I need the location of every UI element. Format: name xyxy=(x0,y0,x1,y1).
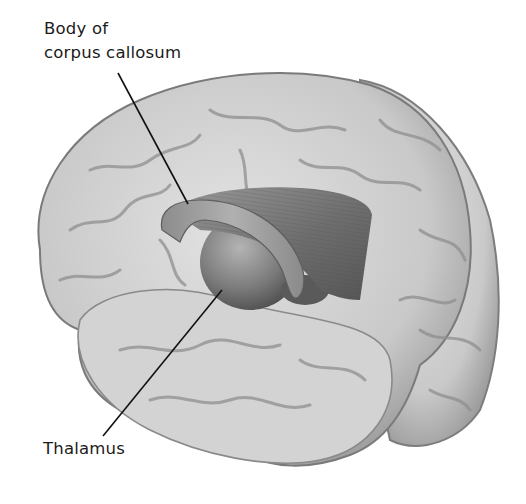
brain-illustration xyxy=(0,0,526,504)
label-corpus-callosum-line2: corpus callosum xyxy=(44,41,181,65)
label-corpus-callosum-line1: Body of xyxy=(44,17,181,41)
brain-diagram: Body of corpus callosum Thalamus xyxy=(0,0,526,504)
label-corpus-callosum: Body of corpus callosum xyxy=(44,17,181,65)
label-thalamus: Thalamus xyxy=(43,437,125,461)
